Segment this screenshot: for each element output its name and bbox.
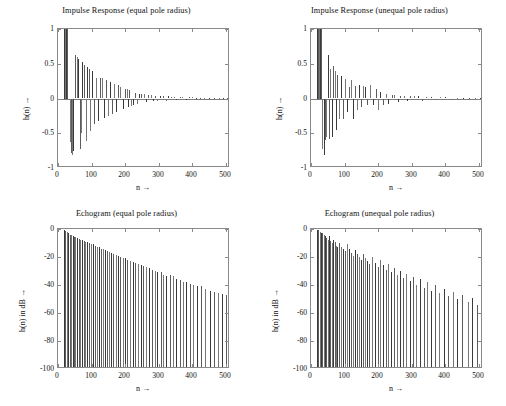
panel-echogram-equal: Echogram (equal pole radius) n → h(n) in… [0, 203, 253, 406]
stem-line [457, 299, 458, 368]
stem-line [333, 240, 334, 368]
stem-line [149, 268, 150, 368]
stem-line [107, 251, 108, 368]
stem-line [173, 276, 174, 368]
y-tick-label: 1 [303, 24, 307, 33]
stem-line [84, 65, 85, 98]
y-tick-mark [225, 64, 228, 65]
stem-line [426, 97, 427, 98]
y-tick-mark [58, 133, 61, 134]
stem-line [82, 62, 83, 98]
stem-line [397, 275, 398, 368]
y-tick-mark [225, 257, 228, 258]
y-tick-mark [478, 133, 481, 134]
x-tick-mark [125, 29, 126, 32]
y-tick-mark [225, 229, 228, 230]
stem-line [345, 79, 346, 98]
stem-line [138, 264, 139, 368]
stem-line [166, 276, 167, 368]
stem-line [341, 247, 342, 369]
zero-line [58, 99, 228, 100]
stem-line [205, 289, 206, 368]
stem-line [353, 256, 354, 368]
stem-line [370, 85, 371, 99]
stem-line [386, 270, 387, 368]
y-tick-mark [478, 29, 481, 30]
stem-line [398, 99, 399, 102]
figure-root: Impulse Response (equal pole radius) n →… [0, 0, 506, 406]
x-tick-mark [412, 229, 413, 232]
stem-line [388, 264, 389, 368]
stem-line [146, 99, 147, 102]
x-tick-mark [345, 29, 346, 32]
stem-line [112, 99, 113, 114]
x-tick-label: 0 [308, 170, 312, 179]
stem-line [197, 286, 198, 368]
x-tick-mark [159, 364, 160, 367]
stem-line [182, 97, 183, 98]
stem-line [469, 98, 470, 99]
stem-line [335, 71, 336, 98]
stem-line [120, 257, 121, 368]
stem-line [435, 285, 436, 368]
stem-line [90, 99, 91, 132]
stem-line [168, 96, 169, 98]
stem-line [100, 78, 101, 98]
stem-line [463, 98, 464, 99]
y-tick-label: -80 [297, 336, 307, 345]
stem-line [321, 29, 322, 99]
stem-line [127, 260, 128, 368]
stem-line [109, 252, 110, 368]
stem-line [163, 96, 164, 98]
stem-line [406, 274, 407, 368]
x-tick-mark [445, 364, 446, 367]
y-tick-label: -60 [297, 308, 307, 317]
x-tick-label: 300 [152, 170, 163, 179]
stem-line [171, 97, 172, 98]
stem-line [345, 251, 346, 368]
stem-line [337, 75, 338, 99]
y-tick-mark [478, 341, 481, 342]
stem-line [333, 66, 334, 99]
y-tick-mark [58, 257, 61, 258]
stem-line [322, 99, 323, 149]
x-tick-label: 500 [219, 371, 230, 380]
stem-line [347, 99, 348, 113]
stem-line [192, 97, 193, 98]
x-tick-mark [311, 364, 312, 367]
x-tick-mark [92, 229, 93, 232]
y-tick-label: 0.5 [298, 59, 308, 68]
stem-line [440, 97, 441, 98]
stem-line [87, 242, 88, 368]
stem-line [139, 94, 140, 99]
stem-line [125, 89, 126, 99]
stem-line [68, 233, 69, 368]
y-tick-label: -80 [44, 336, 54, 345]
stem-line [431, 97, 432, 98]
stem-line [359, 257, 360, 368]
x-tick-label: 400 [438, 170, 449, 179]
stem-line [357, 99, 358, 110]
x-tick-mark [378, 364, 379, 367]
x-tick-mark [125, 229, 126, 232]
stem-line [97, 247, 98, 369]
stem-line [477, 305, 478, 368]
x-tick-label: 0 [55, 170, 59, 179]
stem-line [148, 95, 149, 98]
y-axis-label: h(n) in dB → [18, 289, 27, 332]
stem-line [95, 246, 96, 368]
stem-line [161, 272, 162, 368]
stem-line [355, 250, 356, 368]
panel-impulse-response-equal: Impulse Response (equal pole radius) n →… [0, 0, 253, 203]
y-tick-mark [58, 99, 61, 100]
stem-line [189, 97, 190, 98]
stem-line [468, 302, 469, 368]
stem-line [375, 263, 376, 368]
y-tick-label: -20 [44, 252, 54, 261]
stem-line [75, 55, 76, 99]
stem-line [186, 99, 187, 100]
stem-line [176, 99, 177, 100]
stem-line [96, 78, 97, 99]
stem-line [378, 267, 379, 368]
y-tick-label: -100 [40, 364, 54, 373]
